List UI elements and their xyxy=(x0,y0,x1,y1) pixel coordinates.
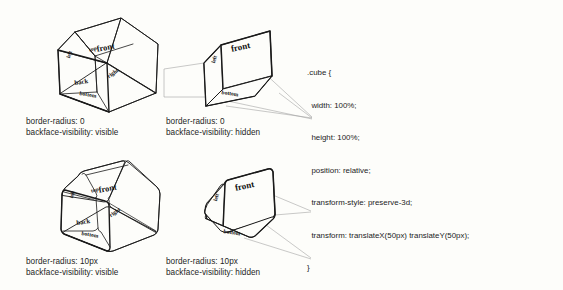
face-label-front: front xyxy=(230,40,251,54)
code-line: transform: translateX(50px) translateY(5… xyxy=(307,231,559,242)
cube-top-left xyxy=(58,18,158,112)
face-label-left: left xyxy=(68,190,76,199)
caption-border-radius: border-radius: 0 xyxy=(166,117,260,128)
caption-border-radius: border-radius: 10px xyxy=(26,257,118,268)
caption-backface-visibility: backface-visibility: visible xyxy=(26,128,118,139)
caption-cube-bottom-left: border-radius: 10px backface-visibility:… xyxy=(26,257,118,278)
face-label-bottom: bottom xyxy=(221,89,239,97)
face-label-left: left xyxy=(65,50,73,59)
cube-bottom-right xyxy=(205,169,276,238)
caption-border-radius: border-radius: 0 xyxy=(26,117,118,128)
face-label-right: right xyxy=(106,67,120,79)
face-label-left: left xyxy=(210,55,218,64)
code-panel: .cube { width: 100%; height: 100%; posit… xyxy=(307,14,559,290)
face-label-back: back xyxy=(74,77,88,86)
code-line: height: 100%; xyxy=(307,133,559,144)
code-line: width: 100%; xyxy=(307,101,559,112)
face-label-front: front xyxy=(234,179,255,193)
face-label-bottom: bottom xyxy=(79,90,97,99)
face-label-left: left xyxy=(212,193,220,202)
code-line: } xyxy=(307,263,559,274)
face-label-back: back xyxy=(76,217,90,226)
face-label-bottom: bottom xyxy=(81,230,99,239)
face-label-front: front xyxy=(98,183,117,195)
face-label-front: front xyxy=(96,42,115,54)
caption-backface-visibility: backface-visibility: hidden xyxy=(166,268,260,279)
code-block-cube-rule: .cube { width: 100%; height: 100%; posit… xyxy=(307,47,559,290)
caption-border-radius: border-radius: 10px xyxy=(166,257,260,268)
caption-backface-visibility: backface-visibility: hidden xyxy=(166,128,260,139)
cube-bottom-left xyxy=(61,161,160,252)
leader-lines-bottom-right xyxy=(244,193,311,259)
face-label-right: right xyxy=(108,206,122,218)
caption-backface-visibility: backface-visibility: visible xyxy=(26,268,118,279)
leader-lines-top-right xyxy=(164,58,312,119)
caption-cube-bottom-right: border-radius: 10px backface-visibility:… xyxy=(166,257,260,278)
figure-root: top front left right back bottom front l… xyxy=(0,0,563,290)
code-line: transform-style: preserve-3d; xyxy=(307,198,559,209)
code-line: position: relative; xyxy=(307,166,559,177)
caption-cube-top-left: border-radius: 0 backface-visibility: vi… xyxy=(26,117,118,138)
caption-cube-top-right: border-radius: 0 backface-visibility: hi… xyxy=(166,117,260,138)
code-line: .cube { xyxy=(307,68,559,79)
face-label-bottom: bottom xyxy=(223,228,241,236)
